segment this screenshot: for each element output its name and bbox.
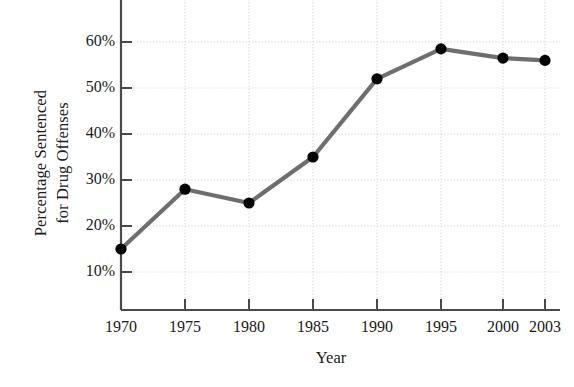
data-point (307, 151, 318, 162)
data-point (435, 43, 446, 54)
gridlines (121, 0, 560, 310)
axis-lines (121, 0, 560, 310)
line-chart: Percentage Sentenced for Drug Offenses 1… (0, 0, 574, 387)
data-point (179, 184, 190, 195)
data-point (115, 243, 126, 254)
data-point (539, 55, 550, 66)
y-axis-ticks (121, 0, 132, 272)
data-point (497, 53, 508, 64)
data-point (371, 73, 382, 84)
data-line-series (121, 49, 545, 249)
x-axis-ticks (121, 299, 545, 310)
data-point (243, 197, 254, 208)
plot-area (0, 0, 574, 387)
data-point-markers (115, 43, 550, 254)
